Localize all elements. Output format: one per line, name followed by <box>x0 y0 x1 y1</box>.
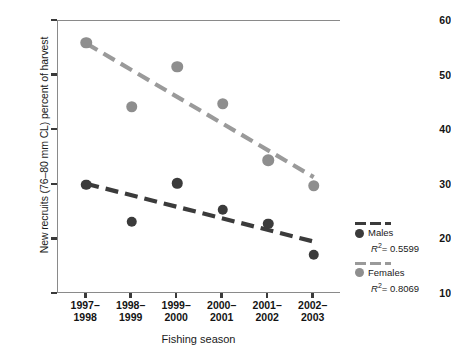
legend-row-females: Females <box>355 267 451 279</box>
x-tick-label-2002–2003: 2002–2003 <box>282 300 344 323</box>
x-tick-0 <box>84 293 87 298</box>
x-tick-4 <box>266 293 269 298</box>
data-point-males-2002–2003 <box>308 249 319 260</box>
x-tick-3 <box>220 293 223 298</box>
legend-r2-males: R2= 0.5599 <box>371 239 451 255</box>
y-tick-label-50: 50 <box>407 69 451 81</box>
trendline-females <box>86 43 313 177</box>
chart-legend: Males R2= 0.5599 Females R2= 0.8069 <box>355 222 451 301</box>
data-point-males-1997–1998 <box>81 180 92 191</box>
x-tick-label-line: 2003 <box>282 312 344 324</box>
y-tick-label-60: 60 <box>407 14 451 26</box>
legend-label-males: Males <box>368 227 393 239</box>
r2-symbol-males: R <box>371 244 378 255</box>
figure-container: New recruits (76–80 mm CL) percent of ha… <box>0 0 451 358</box>
legend-group-males: Males R2= 0.5599 <box>355 222 451 256</box>
y-tick-label-30: 30 <box>407 178 451 190</box>
data-point-females-1998–1999 <box>126 101 138 113</box>
x-tick-5 <box>311 293 314 298</box>
plot-area <box>57 20 340 293</box>
data-point-females-2002–2003 <box>308 180 320 192</box>
data-point-males-2001–2002 <box>263 218 274 229</box>
data-point-females-1999–2000 <box>171 61 183 73</box>
r2-value-males: = 0.5599 <box>382 244 419 255</box>
y-axis-title: New recruits (76–80 mm CL) percent of ha… <box>38 0 50 290</box>
trendlines-layer <box>58 21 341 294</box>
legend-row-males: Males <box>355 227 451 239</box>
data-point-males-1999–2000 <box>172 178 183 189</box>
x-axis-title: Fishing season <box>57 333 340 345</box>
x-tick-1 <box>129 293 132 298</box>
legend-r2-females: R2= 0.8069 <box>371 279 451 295</box>
data-point-females-1997–1998 <box>80 37 92 49</box>
legend-dash-females <box>355 262 395 265</box>
legend-label-females: Females <box>368 267 404 279</box>
legend-marker-males <box>355 229 364 238</box>
r2-symbol-females: R <box>371 283 378 294</box>
trendline-males <box>86 184 313 242</box>
data-point-females-2000–2001 <box>217 98 229 110</box>
data-point-females-2001–2002 <box>262 154 274 166</box>
x-tick-2 <box>175 293 178 298</box>
y-tick-label-40: 40 <box>407 123 451 135</box>
data-point-males-2000–2001 <box>217 205 228 216</box>
plot-inner <box>58 21 340 292</box>
legend-dash-males <box>355 222 395 225</box>
legend-group-females: Females R2= 0.8069 <box>355 262 451 296</box>
r2-value-females: = 0.8069 <box>382 283 419 294</box>
x-tick-label-line: 2002– <box>282 300 344 312</box>
data-point-males-1998–1999 <box>126 217 137 228</box>
legend-marker-females <box>355 268 364 277</box>
